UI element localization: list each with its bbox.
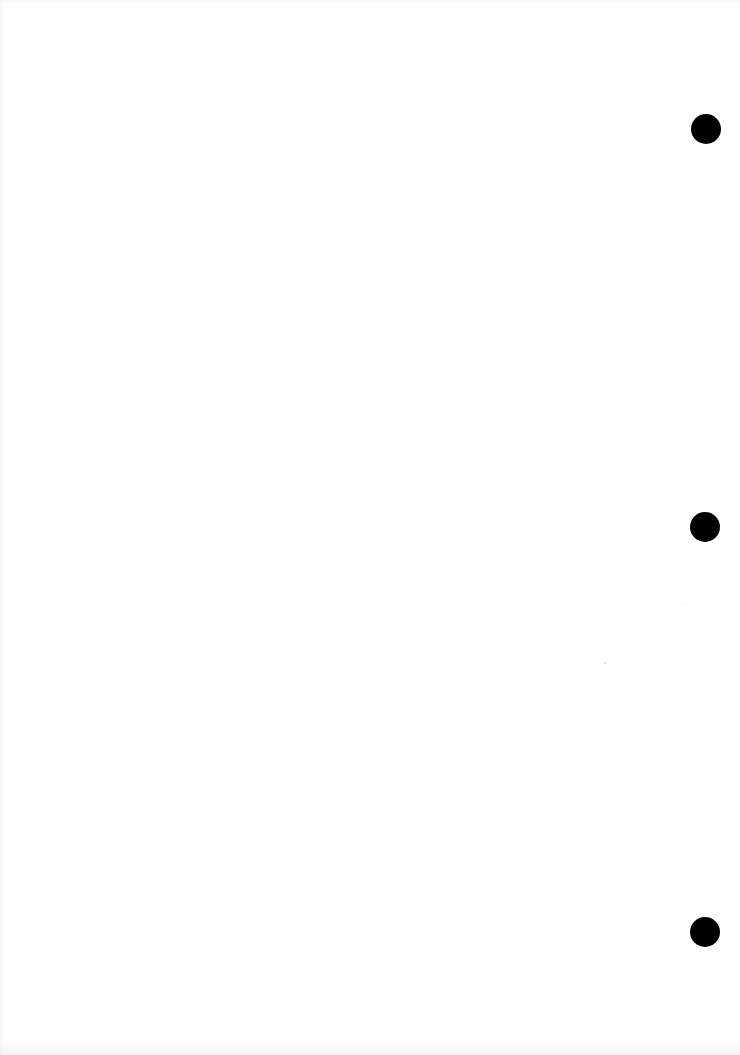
punch-hole-2 (690, 512, 720, 542)
scan-speck (604, 662, 606, 664)
scan-edge-bottom (0, 1041, 740, 1055)
scan-speck (684, 602, 686, 604)
punch-hole-3 (690, 917, 720, 947)
scan-edge-left (0, 0, 3, 1055)
scan-edge-top (0, 0, 740, 4)
punch-hole-1 (691, 114, 721, 144)
scanned-page (0, 0, 740, 1055)
